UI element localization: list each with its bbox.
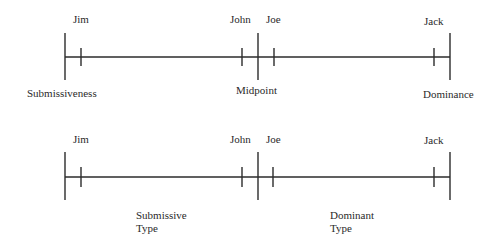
dominance-diagram xyxy=(0,0,500,242)
typology-label-submissive-type: SubmissiveType xyxy=(136,209,187,235)
typology-label-jack: Jack xyxy=(424,134,444,147)
continuum-label-john: John xyxy=(230,13,251,26)
typology-label-john: John xyxy=(230,133,251,146)
typology-label-jim: Jim xyxy=(73,133,89,146)
continuum-label-right: Dominance xyxy=(423,88,474,101)
typology-label-joe: Joe xyxy=(266,133,281,146)
continuum-label-joe: Joe xyxy=(266,13,281,26)
continuum-label-left: Submissiveness xyxy=(27,87,97,100)
typology-label-dominant-type: DominantType xyxy=(330,209,374,235)
continuum-label-jack: Jack xyxy=(424,15,444,28)
continuum-label-mid: Midpoint xyxy=(236,84,277,97)
continuum-label-jim: Jim xyxy=(73,13,89,26)
